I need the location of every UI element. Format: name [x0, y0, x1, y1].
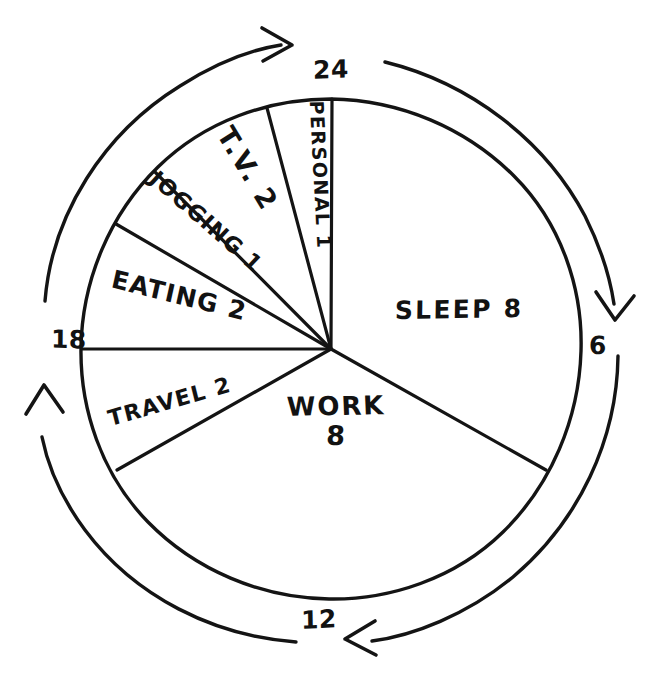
hour-tick-label-18: 18	[51, 324, 87, 354]
slice-label-sleep: SLEEP 8	[395, 294, 524, 325]
arrow-head-bottom	[345, 621, 376, 655]
hour-tick-label-12: 12	[301, 604, 337, 635]
slice-label-work-line2: 8	[275, 420, 397, 452]
arrow-head-left	[26, 385, 63, 414]
arrow-head-right	[596, 292, 634, 320]
slice-label-work-line1: WORK	[275, 391, 396, 422]
hour-tick-label-6: 6	[589, 331, 608, 361]
pie-chart-figure: 24 6 12 18 SLEEP 8 WORK 8 TRAVEL 2 EATIN…	[0, 0, 655, 684]
slice-label-work: WORK 8	[276, 392, 396, 451]
hour-tick-label-24: 24	[313, 54, 349, 84]
